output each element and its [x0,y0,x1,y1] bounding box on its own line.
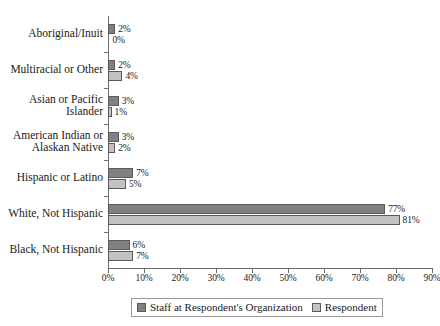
x-axis-tick-label: 0% [102,273,114,283]
chart-bar [108,143,115,153]
category-label: Black, Not Hispanic [0,243,103,255]
category-axis-tick [104,52,108,53]
legend-item-respondent: Respondent [312,301,377,313]
bar-value-label: 81% [403,215,420,225]
bar-value-label: 5% [129,179,141,189]
x-axis-tick-label: 20% [172,273,189,283]
x-axis-tick-label: 70% [352,273,369,283]
chart-bar [108,60,115,70]
chart-bar [108,132,119,142]
chart-category-row: Black, Not Hispanic6%7% [108,232,432,268]
bar-value-label: 1% [115,107,127,117]
chart-bar [108,71,122,81]
legend-swatch-icon-staff [137,303,146,312]
chart-bar [108,215,400,225]
category-label: White, Not Hispanic [0,207,103,219]
chart-category-row: American Indian or Alaskan Native3%2% [108,124,432,160]
x-axis-tick-label: 80% [388,273,405,283]
category-label: Asian or Pacific Islander [0,93,103,117]
chart-category-row: Hispanic or Latino7%5% [108,160,432,196]
category-axis-tick [104,160,108,161]
bar-value-label: 2% [118,60,130,70]
bar-value-label: 2% [118,24,130,34]
x-axis-tick-label: 90% [424,273,440,283]
value-axis-line [108,268,433,269]
legend-label-staff: Staff at Respondent's Organization [150,301,303,313]
legend-label-respondent: Respondent [325,301,377,313]
category-axis-tick [104,196,108,197]
chart-legend: Staff at Respondent's Organization Respo… [131,298,383,317]
x-axis-tick-label: 40% [244,273,261,283]
chart-bar [108,204,385,214]
category-axis-tick [104,232,108,233]
legend-swatch-icon-respondent [312,303,321,312]
chart-bar [108,179,126,189]
chart-bar [108,168,133,178]
category-label: American Indian or Alaskan Native [0,129,103,153]
x-axis-tick-label: 50% [280,273,297,283]
category-label: Aboriginal/Inuit [0,27,103,39]
chart-bar [108,251,133,261]
legend-item-staff: Staff at Respondent's Organization [137,301,303,313]
bar-value-label: 4% [125,71,137,81]
bar-value-label: 2% [118,143,130,153]
x-axis-tick-label: 60% [316,273,333,283]
bar-value-label: 3% [122,96,134,106]
category-label: Hispanic or Latino [0,171,103,183]
chart-category-row: Aboriginal/Inuit2%0% [108,16,432,52]
chart-bar [108,107,112,117]
bar-value-label: 0% [113,35,125,45]
category-label: Multiracial or Other [0,63,103,75]
chart-bar [108,96,119,106]
bar-value-label: 6% [133,240,145,250]
category-axis-tick [104,124,108,125]
category-axis-tick [104,88,108,89]
plot-area: Aboriginal/Inuit2%0%Multiracial or Other… [108,16,432,268]
chart-category-row: White, Not Hispanic77%81% [108,196,432,232]
bar-value-label: 77% [388,204,405,214]
bar-value-label: 7% [136,251,148,261]
chart-category-row: Asian or Pacific Islander3%1% [108,88,432,124]
bar-value-label: 7% [136,168,148,178]
chart-bar [108,24,115,34]
chart-bar [108,240,130,250]
x-axis-tick-label: 30% [208,273,225,283]
bar-value-label: 3% [122,132,134,142]
x-axis-tick-label: 10% [136,273,153,283]
chart-category-row: Multiracial or Other2%4% [108,52,432,88]
